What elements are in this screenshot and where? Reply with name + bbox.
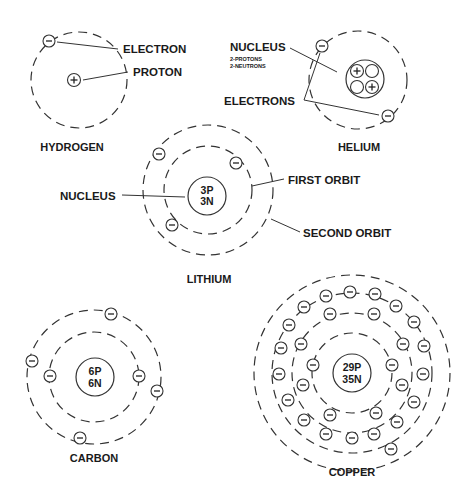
electrons-leader-line-1 [304,53,320,100]
nucleus-label: NUCLEUS [230,41,286,53]
electron-icon [283,319,295,331]
electron-icon [396,379,408,391]
neutron-icon [351,81,364,94]
electron-icon [43,35,55,47]
electron-icon [369,288,381,300]
nucleus-neutrons: 6N [88,377,101,389]
electron-icon [151,385,163,397]
electron-icon [368,428,380,440]
electron-icon [324,308,336,320]
electron-icon [74,432,86,444]
electron-icon [307,359,319,371]
helium-atom: NUCLEUS 2-PROTONS 2-NEUTRONS ELECTRONS H… [224,31,407,153]
electron-icon [295,338,307,350]
electron-icon [166,219,178,231]
electron-icon [382,110,394,122]
hydrogen-atom: ELECTRON PROTON HYDROGEN [31,32,186,153]
electron-icon [298,414,310,426]
electron-icon [344,286,356,298]
electron-icon [26,355,38,367]
nucleus-leader-line [122,195,185,197]
electron-icon [275,342,287,354]
electron-icon [385,443,397,455]
proton-label: PROTON [133,66,182,78]
copper-title: COPPER [329,466,376,478]
carbon-atom: 6P 6N CARBON [26,308,163,464]
helium-title: HELIUM [338,141,380,153]
nucleus-leader-line [290,48,337,72]
protons-note: 2-PROTONS [230,56,262,62]
electron-icon [386,359,398,371]
neutrons-note: 2-NEUTRONS [230,63,266,69]
electron-icon [133,370,145,382]
copper-atom: 29P 35N COPPER [254,275,450,478]
helium-nucleus [346,60,384,98]
electron-icon [418,340,430,352]
proton-leader-line [83,72,128,80]
first-orbit-label: FIRST ORBIT [288,174,360,186]
nucleus-neutrons: 35N [342,373,361,385]
lithium-title: LITHIUM [187,273,232,285]
electron-icon [368,308,380,320]
electron-icon [153,148,165,160]
electron-label: ELECTRON [123,43,186,55]
electron-icon [370,407,382,419]
electron-icon [408,396,420,408]
neutron-icon [366,65,379,78]
nucleus-neutrons: 3N [200,195,213,207]
hydrogen-title: HYDROGEN [40,141,104,153]
electron-icon [316,40,328,52]
electrons-leader-line-2 [304,100,379,115]
electron-icon [417,368,429,380]
electron-icon [390,300,402,312]
second-orbit-label: SECOND ORBIT [303,227,391,239]
proton-icon [366,81,379,94]
proton-icon [351,65,364,78]
electron-icon [282,394,294,406]
second-orbit-leader-line [271,219,300,232]
electron-icon [273,368,285,380]
electron-icon [408,316,420,328]
electrons-label: ELECTRONS [224,95,295,107]
electron-icon [298,301,310,313]
carbon-title: CARBON [70,452,118,464]
electron-icon [320,290,332,302]
nucleus-label: NUCLEUS [60,190,116,202]
electron-icon [324,409,336,421]
electron-icon [346,432,358,444]
electron-icon [320,428,332,440]
proton-icon [68,74,81,87]
electron-icon [230,157,242,169]
first-orbit-leader-line [252,179,284,186]
nucleus-protons: 6P [89,365,102,377]
electron-icon [105,308,117,320]
electron-icon [391,416,403,428]
electron-icon [397,338,409,350]
nucleus-protons: 29P [343,361,362,373]
electron-icon [44,370,56,382]
electron-icon [297,379,309,391]
atomic-structure-diagram: ELECTRON PROTON HYDROGEN NUCLEUS 2-PROTO… [0,0,469,502]
